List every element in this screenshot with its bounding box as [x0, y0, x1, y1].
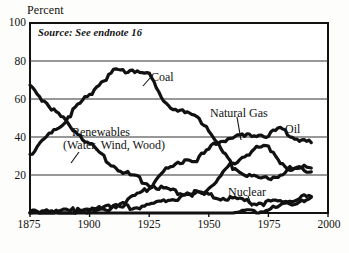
series-label-natural-gas: Natural Gas: [210, 106, 268, 121]
series-label-renewables-sub: (Water, Wind, Wood): [63, 139, 165, 152]
chart-figure: Percent 100 80 60 40 20 1875 1900 1925 1…: [0, 0, 349, 253]
series-label-oil: Oil: [285, 122, 300, 137]
series-label-nuclear: Nuclear: [228, 185, 266, 200]
series-label-coal: Coal: [151, 70, 174, 85]
series-label-renewables: Renewables: [72, 126, 130, 139]
